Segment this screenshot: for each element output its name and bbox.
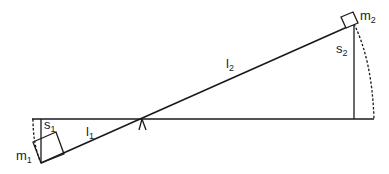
lever-beam bbox=[41, 24, 354, 163]
label-s1: s1 bbox=[44, 118, 56, 134]
label-m2-base: m bbox=[360, 8, 371, 23]
label-m2-sub: 2 bbox=[371, 15, 376, 25]
label-l2: l2 bbox=[226, 57, 234, 73]
label-l1: l1 bbox=[86, 125, 94, 141]
label-m1-base: m bbox=[16, 148, 27, 163]
label-m1-sub: 1 bbox=[27, 155, 32, 165]
label-m1: m1 bbox=[16, 149, 32, 165]
label-s2: s2 bbox=[336, 42, 348, 58]
pivot-fulcrum bbox=[139, 119, 146, 130]
label-s1-sub: 1 bbox=[51, 124, 56, 134]
label-l2-sub: 2 bbox=[229, 63, 234, 73]
label-l1-sub: 1 bbox=[89, 131, 94, 141]
mass-m1-block bbox=[33, 132, 64, 163]
right-arc-dashed bbox=[354, 24, 374, 119]
lever-diagram bbox=[0, 0, 389, 174]
label-m2: m2 bbox=[360, 9, 376, 25]
label-s2-sub: 2 bbox=[343, 48, 348, 58]
